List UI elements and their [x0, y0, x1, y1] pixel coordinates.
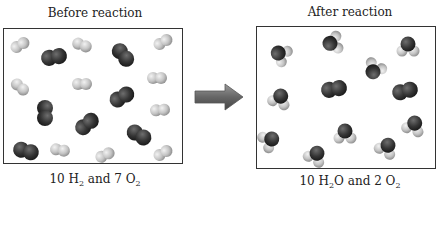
after-caption: 10 H2O and 2 O2	[285, 174, 415, 190]
reaction-arrow-icon	[193, 82, 245, 112]
before-caption: 10 H2 and 7 O2	[30, 172, 160, 188]
after-molecules	[255, 30, 428, 170]
before-molecules	[8, 32, 174, 165]
